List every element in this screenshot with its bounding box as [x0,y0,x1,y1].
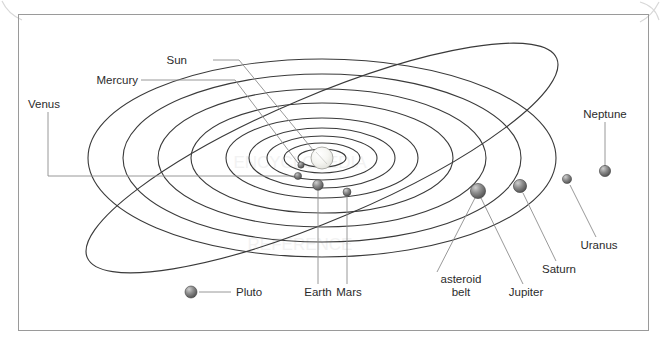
leader-jupiter [481,198,523,284]
body-mars [343,188,351,196]
label-earth: Earth [304,286,332,298]
page-curl-right-icon [640,2,659,22]
body-venus [294,172,301,179]
figure-page: ENCYCLOPEDIA REFERENCE [0,0,661,346]
body-mercury [298,162,304,168]
label-mars: Mars [336,286,362,298]
leader-saturn [523,193,556,261]
body-saturn [513,179,526,192]
label-uranus: Uranus [580,239,617,251]
label-saturn: Saturn [542,263,576,275]
label-mercury: Mercury [96,74,138,86]
body-pluto [185,286,197,298]
body-jupiter [470,183,485,198]
label-neptune: Neptune [583,108,626,120]
body-earth [313,180,324,191]
solar-system-diagram: ENCYCLOPEDIA REFERENCE [0,0,661,346]
body-uranus [562,174,571,183]
leader-asteroid-belt [437,196,476,272]
label-pluto: Pluto [236,286,262,298]
label-asteroid-belt-line1: asteroid [441,273,482,285]
leader-mercury [141,80,298,163]
label-asteroid-belt-line2: belt [452,286,471,298]
label-sun: Sun [167,54,187,66]
page-curl-corner-icon [640,2,659,20]
body-neptune [599,165,610,176]
label-jupiter: Jupiter [509,286,544,298]
leader-uranus [570,185,596,237]
label-venus: Venus [28,98,60,110]
